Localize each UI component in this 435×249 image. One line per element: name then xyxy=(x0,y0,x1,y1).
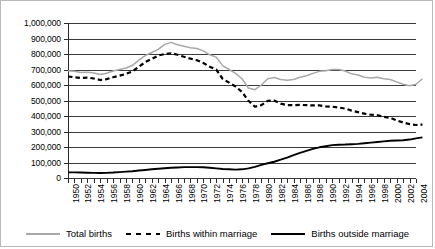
legend-item[interactable]: Births outside marriage xyxy=(271,229,409,239)
legend-label: Total births xyxy=(66,229,112,239)
legend-swatch-icon xyxy=(26,229,60,239)
legend-label: Births within marriage xyxy=(166,229,257,239)
legend-swatch-icon xyxy=(271,229,305,239)
series-line xyxy=(68,53,422,125)
legend-swatch-icon xyxy=(126,229,160,239)
chart-container: 1,000,000900,000800,000700,000600,000500… xyxy=(0,0,433,247)
chart-legend: Total birthsBirths within marriageBirths… xyxy=(1,223,434,245)
series-line xyxy=(68,42,422,89)
series-line xyxy=(68,137,422,173)
plot-area: 1,000,000900,000800,000700,000600,000500… xyxy=(1,1,434,248)
legend-item[interactable]: Total births xyxy=(26,229,112,239)
legend-label: Births outside marriage xyxy=(311,229,409,239)
legend-item[interactable]: Births within marriage xyxy=(126,229,257,239)
series-lines xyxy=(1,1,434,248)
